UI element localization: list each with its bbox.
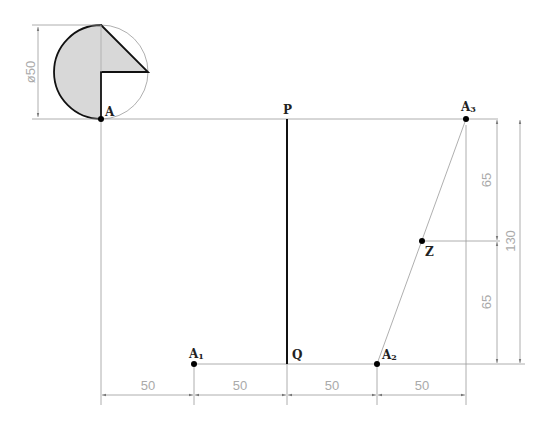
svg-text:A2: A2 xyxy=(381,348,397,362)
dim-label-2: 50 xyxy=(233,378,247,393)
circle-figure xyxy=(54,25,148,119)
label-z: Z xyxy=(425,245,434,259)
svg-text:A1: A1 xyxy=(188,347,204,361)
dim-label-3: 50 xyxy=(325,378,339,393)
bottom-dimensions: 50 50 50 50 xyxy=(102,378,465,395)
label-a: A xyxy=(104,105,115,119)
label-p: P xyxy=(283,103,292,117)
dim-label-1: 50 xyxy=(141,378,155,393)
point-a2 xyxy=(374,361,380,367)
dim-label-upper: 65 xyxy=(479,173,494,187)
point-a xyxy=(98,116,104,122)
dim-label-4: 50 xyxy=(415,378,429,393)
right-dimensions: 65 65 130 xyxy=(479,120,520,363)
diameter-label: ø50 xyxy=(23,61,38,83)
point-z xyxy=(419,238,425,244)
dim-label-lower: 65 xyxy=(479,295,494,309)
point-a1 xyxy=(191,361,197,367)
svg-text:A3: A3 xyxy=(460,100,476,114)
points xyxy=(98,116,469,367)
diagram-canvas: ø50 50 50 50 50 65 65 130 xyxy=(0,0,549,425)
label-q: Q xyxy=(292,348,302,362)
point-a3 xyxy=(463,116,469,122)
dim-label-total: 130 xyxy=(503,230,518,252)
